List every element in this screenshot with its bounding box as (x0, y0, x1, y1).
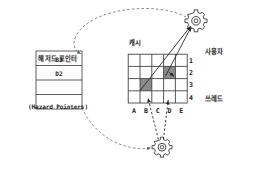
user-thread-label-line1: 사용자 (205, 49, 255, 57)
eviction-candidate-arrows (148, 98, 168, 139)
cache-grid-lines (128, 54, 187, 103)
cache-column-label-D: D (164, 107, 176, 115)
eviction-thread-label: 이빅션 쓰레드 (Eviction Thread) (176, 137, 256, 170)
diagram-canvas: 해저드 포인터 (Hazard Pointers) 캐시 사용자 쓰레드 이빅션… (0, 0, 256, 170)
hazard-pointers-title-en: (Hazard Pointers) (6, 103, 110, 110)
hazard-pointer-row-0: B3 (36, 56, 82, 63)
hazard-pointers-title: 해저드 포인터 (Hazard Pointers) (6, 17, 110, 149)
cache-column-label-E: E (175, 107, 187, 115)
cache-row-label-4: 4 (189, 94, 197, 102)
user-thread-label-line2: 쓰레드 (205, 96, 255, 104)
access-arrows-to-user-thread (141, 26, 192, 90)
cache-row-label-3: 3 (189, 81, 197, 89)
hazard-pointer-row-1: D2 (36, 70, 82, 77)
cache-title: 캐시 (115, 40, 155, 48)
user-thread-label: 사용자 쓰레드 (205, 10, 255, 143)
cache-column-label-B: B (140, 107, 152, 115)
cache-row-label-2: 2 (189, 69, 197, 77)
cache-column-label-C: C (152, 107, 164, 115)
cache-row-label-1: 1 (189, 57, 197, 65)
cache-column-label-A: A (128, 107, 140, 115)
eviction-thread-gear-icon (152, 137, 172, 157)
